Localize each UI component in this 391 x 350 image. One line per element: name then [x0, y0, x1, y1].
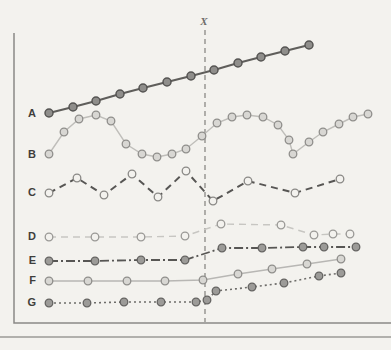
series-B-point [289, 150, 297, 158]
series-A-point [139, 84, 147, 92]
series-D-point [181, 232, 189, 240]
series-C-label: C [28, 186, 36, 198]
series-E-point [320, 243, 328, 251]
series-F-point [199, 276, 207, 284]
series-B-point [182, 145, 190, 153]
series-C-point [244, 177, 252, 185]
series-C-point [291, 189, 299, 197]
series-E-point [258, 244, 266, 252]
series-B-point [259, 113, 267, 121]
series-F-point [161, 277, 169, 285]
series-A-point [210, 66, 218, 74]
series-E-point [45, 257, 53, 265]
series-A-point [69, 103, 77, 111]
figure-background [0, 0, 391, 350]
series-D-point [217, 220, 225, 228]
series-G-point [315, 272, 323, 280]
time-series-patterns-chart: XABCDEFG [0, 0, 391, 350]
series-E-point [352, 243, 360, 251]
series-B-point [107, 117, 115, 125]
series-A-point [187, 72, 195, 80]
series-F-label: F [29, 274, 36, 286]
series-D-point [310, 231, 318, 239]
series-B-point [45, 150, 53, 158]
series-G-point [120, 298, 128, 306]
series-D-point [91, 233, 99, 241]
series-F-point [84, 277, 92, 285]
series-G-point [248, 283, 256, 291]
series-A-point [92, 97, 100, 105]
series-E-point [299, 243, 307, 251]
series-B-point [60, 128, 68, 136]
series-B-point [168, 150, 176, 158]
series-B-point [285, 136, 293, 144]
series-A-point [305, 41, 313, 49]
series-A-point [234, 59, 242, 67]
series-A-point [281, 47, 289, 55]
series-D-point [45, 233, 53, 241]
series-B-point [122, 140, 130, 148]
series-F-point [45, 277, 53, 285]
series-F-point [268, 265, 276, 273]
series-B-point [153, 153, 161, 161]
series-E-label: E [29, 254, 36, 266]
series-G-label: G [27, 296, 36, 308]
series-B-point [228, 113, 236, 121]
series-B-point [349, 113, 357, 121]
series-G-point [280, 279, 288, 287]
series-D-point [346, 230, 354, 238]
series-G-point [157, 298, 165, 306]
series-B-point [305, 138, 313, 146]
series-B-point [274, 121, 282, 129]
series-B-point [213, 119, 221, 127]
series-D-point [329, 230, 337, 238]
series-F-point [123, 277, 131, 285]
scanned-figure-page: XABCDEFG [0, 0, 391, 350]
series-B-point [364, 110, 372, 118]
series-C-point [128, 170, 136, 178]
series-A-point [45, 109, 53, 117]
series-C-point [182, 167, 190, 175]
series-B-point [138, 150, 146, 158]
series-E-point [137, 256, 145, 264]
series-F-point [337, 255, 345, 263]
series-B-point [92, 111, 100, 119]
series-A-point [163, 78, 171, 86]
series-B-point [319, 128, 327, 136]
series-A-label: A [28, 107, 36, 119]
series-D-label: D [28, 230, 36, 242]
series-B-point [335, 120, 343, 128]
series-A-point [257, 53, 265, 61]
series-B-point [75, 115, 83, 123]
series-B-point [198, 132, 206, 140]
series-G-point [83, 299, 91, 307]
series-G-point [45, 299, 53, 307]
series-G-point [212, 287, 220, 295]
series-E-point [218, 244, 226, 252]
series-C-point [209, 197, 217, 205]
series-G-point [337, 269, 345, 277]
series-B-point [243, 111, 251, 119]
series-B-label: B [28, 148, 36, 160]
series-D-point [137, 233, 145, 241]
series-C-point [100, 191, 108, 199]
x-marker-label: X [199, 15, 208, 27]
series-F-point [234, 270, 242, 278]
series-C-point [336, 175, 344, 183]
series-F-point [303, 260, 311, 268]
series-G-point [192, 298, 200, 306]
series-C-point [73, 174, 81, 182]
series-A-point [116, 90, 124, 98]
series-G-point [203, 296, 211, 304]
series-D-point [277, 221, 285, 229]
series-E-point [181, 256, 189, 264]
series-C-point [45, 189, 53, 197]
series-E-point [91, 257, 99, 265]
series-C-point [154, 193, 162, 201]
